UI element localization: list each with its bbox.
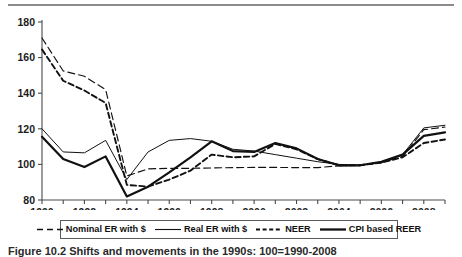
- x-tick-label: 1998: [200, 206, 224, 210]
- top-divider-rule: [8, 4, 454, 6]
- x-tick-label: 2002: [285, 206, 309, 210]
- legend-item-cpi-based-reer[interactable]: CPI based REER: [320, 225, 422, 234]
- x-tick-label: 1990: [30, 206, 54, 210]
- y-tick-label: 140: [17, 87, 35, 99]
- legend-item-neer[interactable]: NEER: [256, 225, 311, 234]
- x-tick-label: 2000: [242, 206, 266, 210]
- x-axis: 1990199219941996199820002002200420062008: [30, 200, 445, 210]
- y-axis: 80100120140160180: [17, 16, 42, 206]
- legend-line-dashed-short-icon: [256, 225, 282, 234]
- series-lines: [42, 38, 445, 196]
- figure-caption: Figure 10.2 Shifts and movements in the …: [8, 245, 458, 257]
- legend-line-solid-thin-icon: [155, 225, 181, 234]
- x-tick-label: 1992: [73, 206, 97, 210]
- legend-line-solid-thick-icon: [320, 225, 346, 234]
- x-tick-label: 2006: [370, 206, 394, 210]
- legend-item-real-er[interactable]: Real ER with $: [155, 225, 247, 234]
- chart-plot-area: 80100120140160180 1990199219941996199820…: [0, 10, 462, 210]
- y-tick-label: 160: [17, 51, 35, 63]
- series-line-nominal-er: [42, 38, 445, 176]
- x-tick-label: 2004: [327, 206, 351, 210]
- legend-label-nominal-er: Nominal ER with $: [66, 225, 146, 234]
- legend-label-cpi-based-reer: CPI based REER: [349, 225, 422, 234]
- y-tick-label: 180: [17, 16, 35, 28]
- legend-item-nominal-er[interactable]: Nominal ER with $: [37, 225, 146, 234]
- line-chart-svg: 80100120140160180 1990199219941996199820…: [0, 10, 462, 210]
- y-tick-label: 80: [23, 194, 35, 206]
- chart-legend: Nominal ER with $ Real ER with $ NEER CP…: [60, 220, 398, 239]
- legend-label-real-er: Real ER with $: [184, 225, 247, 234]
- x-tick-label: 1996: [158, 206, 182, 210]
- legend-line-dashed-long-icon: [37, 225, 63, 234]
- legend-label-neer: NEER: [285, 225, 311, 234]
- y-tick-label: 100: [17, 158, 35, 170]
- x-tick-label: 1994: [115, 206, 139, 210]
- y-tick-label: 120: [17, 123, 35, 135]
- x-tick-label: 2008: [412, 206, 436, 210]
- series-line-neer: [42, 50, 445, 187]
